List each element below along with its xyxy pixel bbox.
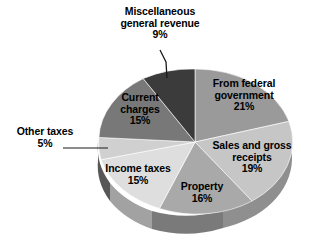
slice-label-percent: 21% <box>190 101 298 113</box>
slice-label-text-line1: Income taxes <box>90 163 186 175</box>
slice-label-percent: 15% <box>104 115 176 127</box>
slice-label-current-charges: Current charges 15% <box>104 92 176 127</box>
slice-label-percent: 9% <box>85 29 235 41</box>
slice-label-text-line1: Current <box>104 92 176 104</box>
pie-chart: Miscellaneous general revenue 9% Other t… <box>0 0 320 252</box>
slice-label-percent: 5% <box>2 138 88 150</box>
slice-label-miscellaneous-general-revenue: Miscellaneous general revenue 9% <box>85 6 235 41</box>
slice-label-sales-and-gross-receipts: Sales and gross receipts 19% <box>196 140 308 175</box>
slice-label-text-line1: From federal <box>190 78 298 90</box>
slice-label-percent: 16% <box>160 193 244 205</box>
slice-label-text-line1: Miscellaneous <box>85 6 235 18</box>
slice-label-income-taxes: Income taxes 15% <box>90 163 186 186</box>
slice-label-other-taxes: Other taxes 5% <box>2 126 88 149</box>
slice-label-from-federal-government: From federal government 21% <box>190 78 298 113</box>
slice-label-percent: 19% <box>196 163 308 175</box>
slice-label-text-line1: Sales and gross <box>196 140 308 152</box>
slice-label-percent: 15% <box>90 175 186 187</box>
slice-label-text-line1: Other taxes <box>2 126 88 138</box>
